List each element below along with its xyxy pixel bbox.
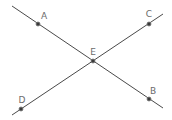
point-label-e: E bbox=[90, 47, 96, 57]
point-label-d: D bbox=[19, 95, 26, 105]
point-b bbox=[147, 97, 151, 101]
point-e bbox=[91, 59, 95, 63]
point-a bbox=[36, 22, 40, 26]
point-label-c: C bbox=[146, 9, 152, 19]
point-d bbox=[19, 107, 23, 111]
line-AB bbox=[12, 6, 163, 108]
lines-layer bbox=[12, 6, 163, 115]
line-DC bbox=[12, 14, 163, 115]
intersecting-lines-diagram: ACEBD bbox=[0, 0, 172, 120]
point-label-b: B bbox=[150, 86, 156, 96]
point-label-a: A bbox=[41, 11, 48, 21]
point-c bbox=[147, 22, 151, 26]
diagram-canvas: ACEBD bbox=[0, 0, 172, 120]
